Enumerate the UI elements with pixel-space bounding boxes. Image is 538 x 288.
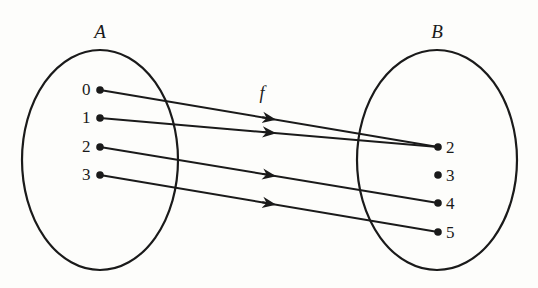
set-a-ellipse xyxy=(22,50,178,270)
set-b-label: B xyxy=(431,22,443,41)
set-a-element-2: 2 xyxy=(82,138,91,155)
mapping-arrows xyxy=(100,90,438,232)
set-b-element-2: 2 xyxy=(446,139,455,156)
diagram-canvas xyxy=(0,0,538,288)
set-b-ellipse xyxy=(357,50,517,270)
function-f-label: f xyxy=(259,84,264,102)
set-b-element-5: 5 xyxy=(446,224,455,241)
set-a-element-3: 3 xyxy=(82,166,91,183)
set-a-label: A xyxy=(94,22,106,41)
set-b-element-4: 4 xyxy=(446,195,455,212)
function-mapping-diagram: A B f 0 1 2 3 2 3 4 5 xyxy=(0,0,538,288)
set-a-element-1: 1 xyxy=(82,109,91,126)
set-a-element-0: 0 xyxy=(82,81,91,98)
element-dots xyxy=(96,86,442,236)
set-b-element-3: 3 xyxy=(446,167,455,184)
